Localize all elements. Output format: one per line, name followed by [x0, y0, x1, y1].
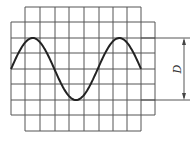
grid — [11, 7, 155, 131]
arrow-up-icon — [182, 38, 186, 45]
arrow-down-icon — [182, 93, 186, 100]
dimension-label: D — [171, 64, 184, 74]
oscilloscope-figure: D — [0, 0, 194, 141]
